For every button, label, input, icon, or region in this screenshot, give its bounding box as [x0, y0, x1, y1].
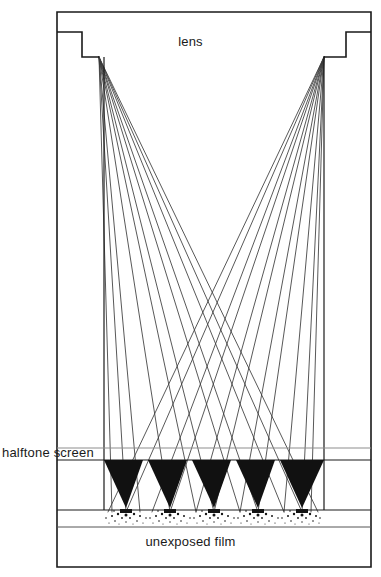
lens-label: lens: [0, 34, 381, 49]
unexposed-film-label: unexposed film: [0, 534, 381, 549]
halftone-diagram: [0, 0, 381, 577]
halftone-screen-label: halftone screen: [2, 445, 94, 460]
